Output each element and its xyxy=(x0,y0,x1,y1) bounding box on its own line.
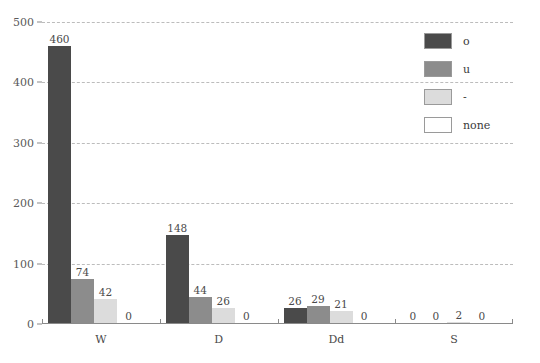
bar-value-label: 0 xyxy=(409,310,416,322)
y-tick-mark xyxy=(37,142,42,143)
bar-value-label: 0 xyxy=(125,310,132,322)
y-tick-label: 0 xyxy=(27,318,34,331)
legend-item[interactable]: - xyxy=(424,86,528,108)
bar: 74 xyxy=(71,279,94,324)
legend-label: none xyxy=(463,120,490,131)
bar: 148 xyxy=(166,235,189,324)
x-group-label: W xyxy=(95,333,106,346)
legend-label: o xyxy=(463,36,470,47)
gridline xyxy=(42,203,513,204)
x-group-label: S xyxy=(450,333,458,346)
bar-value-label: 460 xyxy=(49,33,69,45)
legend-swatch xyxy=(424,117,452,133)
bar-value-label: 148 xyxy=(167,222,187,234)
bar-value-label: 26 xyxy=(288,295,301,307)
bar: 42 xyxy=(94,299,117,324)
gridline xyxy=(42,22,513,23)
bar: 26 xyxy=(212,308,235,324)
legend-item[interactable]: o xyxy=(424,30,528,52)
y-tick-mark xyxy=(37,82,42,83)
gridline xyxy=(42,264,513,265)
legend-swatch xyxy=(424,33,452,49)
y-tick-label: 400 xyxy=(13,76,34,89)
chart-legend: ou-none xyxy=(424,30,528,142)
x-group-separator xyxy=(160,319,161,324)
legend-swatch xyxy=(424,61,452,77)
legend-label: - xyxy=(463,92,467,103)
bar-value-label: 29 xyxy=(311,293,324,305)
bar-value-label: 0 xyxy=(478,310,485,322)
x-group-separator xyxy=(395,319,396,324)
y-tick-label: 300 xyxy=(13,136,34,149)
legend-swatch xyxy=(424,89,452,105)
x-group-separator xyxy=(42,319,43,324)
y-tick-label: 100 xyxy=(13,257,34,270)
bar-value-label: 2 xyxy=(455,309,462,321)
y-tick-mark xyxy=(37,263,42,264)
bar: 29 xyxy=(307,306,330,324)
bar: 44 xyxy=(189,297,212,324)
bar-value-label: 74 xyxy=(76,266,89,278)
bar-value-label: 21 xyxy=(334,298,347,310)
x-group-separator xyxy=(278,319,279,324)
bar: 460 xyxy=(48,46,71,324)
y-tick-label: 500 xyxy=(13,16,34,29)
y-tick-mark xyxy=(37,203,42,204)
x-group-label: D xyxy=(214,333,223,346)
chart-figure: 0100200300400500 46074420148442602629210… xyxy=(0,0,540,363)
y-tick-label: 200 xyxy=(13,197,34,210)
bar-value-label: 0 xyxy=(432,310,439,322)
legend-item[interactable]: none xyxy=(424,114,528,136)
bar-value-label: 26 xyxy=(217,295,230,307)
gridline xyxy=(42,143,513,144)
legend-item[interactable]: u xyxy=(424,58,528,80)
legend-label: u xyxy=(463,64,470,75)
bar-value-label: 0 xyxy=(243,310,250,322)
bar: 26 xyxy=(284,308,307,324)
bar-value-label: 42 xyxy=(99,286,112,298)
bar-value-label: 44 xyxy=(194,284,207,296)
y-tick-mark xyxy=(37,22,42,23)
x-group-separator xyxy=(512,319,513,324)
bar-value-label: 0 xyxy=(361,310,368,322)
x-group-label: Dd xyxy=(328,333,344,346)
